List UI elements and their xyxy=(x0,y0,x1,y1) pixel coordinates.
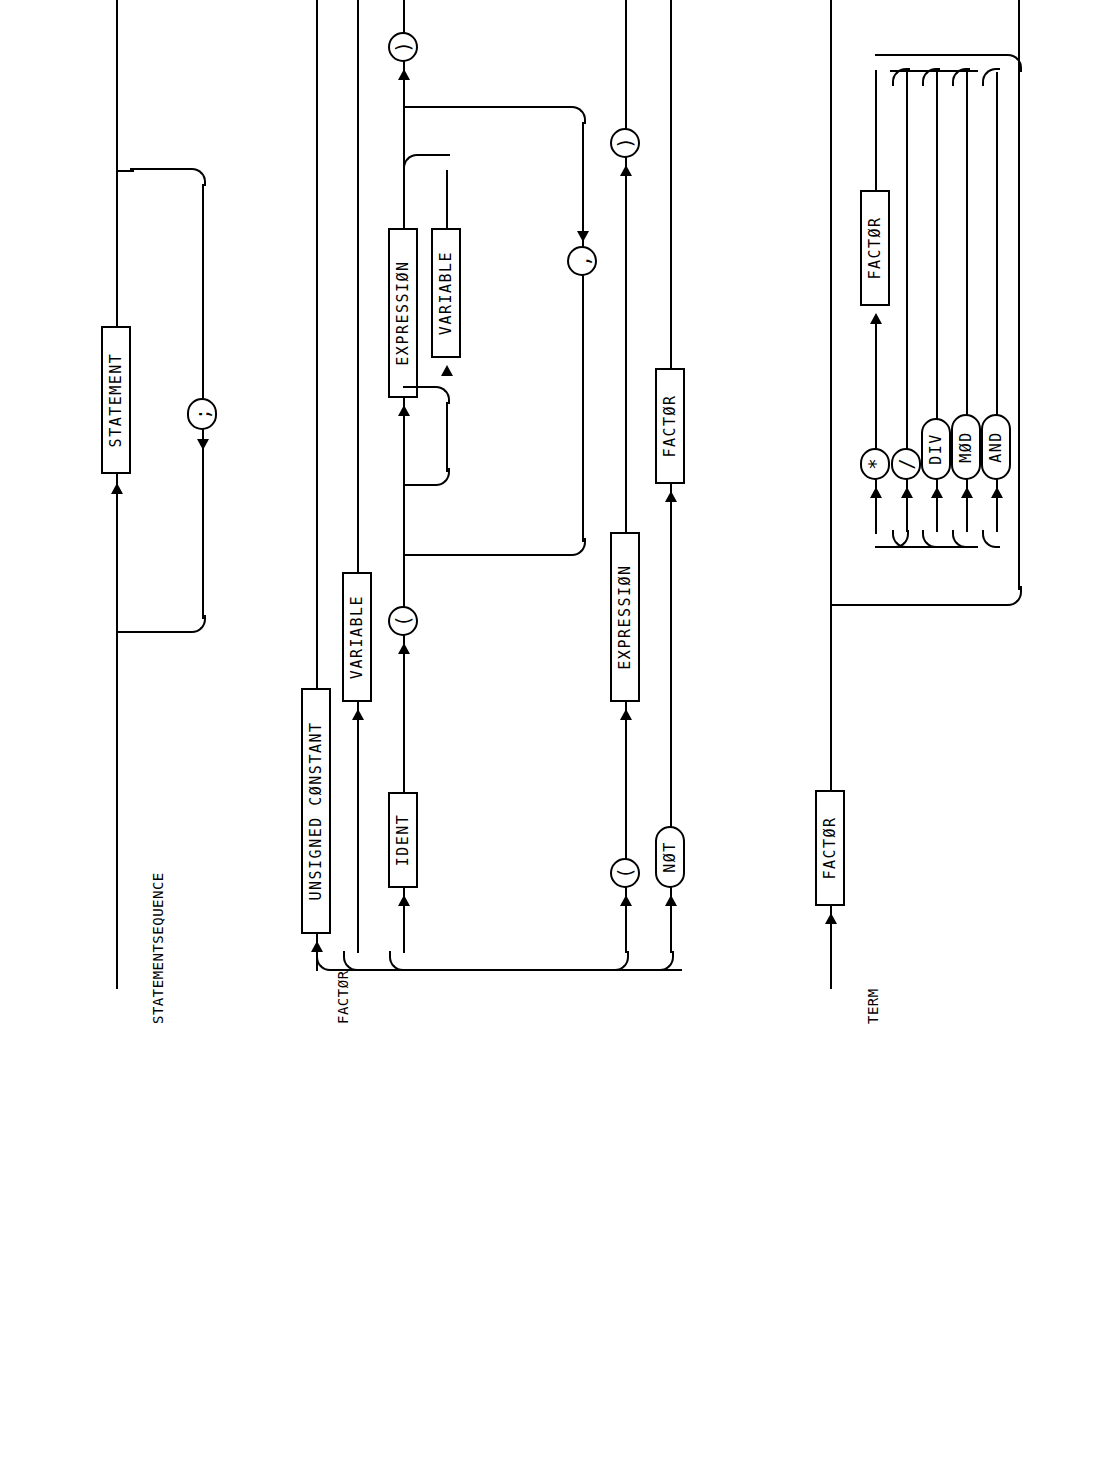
nonterminal-not-factor[interactable]: FACTØR xyxy=(655,368,685,484)
nonterminal-statement[interactable]: STATEMENT xyxy=(101,326,131,474)
alt2-rail xyxy=(357,0,359,953)
arrow-into-op-and xyxy=(991,487,1003,498)
op5-elbow-left xyxy=(982,530,1000,548)
fanout-elbow-top xyxy=(316,951,340,971)
arrow-into-expression-paren xyxy=(620,709,632,720)
terminal-comma[interactable]: , xyxy=(567,246,597,276)
arrow-into-semicolon xyxy=(197,439,209,450)
nonterminal-expression-paren[interactable]: EXPRESSIØN xyxy=(610,532,640,702)
terminal-rparen-call[interactable]: ) xyxy=(388,32,418,62)
terminal-lparen-call[interactable]: ( xyxy=(388,606,418,636)
diagram-statementsequence: STATEMENTSEQUENCE STATEMENT ; xyxy=(0,0,240,1102)
nonterminal-variable-args[interactable]: VARIABLE xyxy=(431,228,461,358)
comma-loop-elbow-right xyxy=(403,106,586,124)
nonterminal-unsigned-constant[interactable]: UNSIGNED CØNSTANT xyxy=(301,688,331,934)
arrow-into-statement xyxy=(111,483,123,494)
args-branch-rejoin xyxy=(446,170,448,228)
args-branch-elbow-right xyxy=(403,386,450,404)
alt2-elbow-left xyxy=(343,951,361,971)
args-branch-elbow-left xyxy=(403,468,450,486)
terminal-op-div-slash[interactable]: / xyxy=(891,448,921,480)
terminal-semicolon[interactable]: ; xyxy=(187,398,217,430)
arrow-into-not xyxy=(665,895,677,906)
loop-elbow-right xyxy=(130,168,206,186)
diagram-label-factor: FACTØR xyxy=(335,970,351,1024)
loop-riser-left xyxy=(116,631,134,633)
alt5-elbow-left xyxy=(656,951,674,971)
arrow-into-lparen-expr xyxy=(620,895,632,906)
arrow-into-op-mod xyxy=(961,487,973,498)
arrow-into-expression-args xyxy=(398,405,410,416)
diagram-label-term: TERM xyxy=(865,988,881,1024)
terminal-rparen-expr[interactable]: ) xyxy=(610,128,640,158)
arrow-into-op-div-slash xyxy=(901,487,913,498)
arrow-into-factor-first xyxy=(825,913,837,924)
loop-elbow-left xyxy=(130,615,206,633)
term-loop-body-rail xyxy=(875,322,877,534)
main-rail-statementsequence xyxy=(116,0,118,989)
terminal-op-mul[interactable]: * xyxy=(860,448,890,480)
arrow-into-lparen-call xyxy=(398,643,410,654)
comma-loop-elbow-left xyxy=(403,538,586,556)
arrow-into-unsigned-constant xyxy=(311,941,323,952)
nonterminal-factor-loop[interactable]: FACTØR xyxy=(860,190,890,306)
arrow-into-op-div xyxy=(931,487,943,498)
term-loop-body-rail-out xyxy=(875,70,877,190)
terminal-op-div[interactable]: DIV xyxy=(921,418,951,480)
nonterminal-factor-first[interactable]: FACTØR xyxy=(815,790,845,906)
nonterminal-expression-args[interactable]: EXPRESSIØN xyxy=(388,228,418,398)
arrow-into-variable-args xyxy=(441,365,453,376)
term-loop-riser-left xyxy=(830,604,848,606)
arrow-into-comma xyxy=(577,231,589,242)
arrow-into-rparen-expr xyxy=(620,165,632,176)
alt4-elbow-left xyxy=(611,951,629,971)
diagram-label-statementsequence: STATEMENTSEQUENCE xyxy=(150,872,166,1024)
nonterminal-ident[interactable]: IDENT xyxy=(388,792,418,888)
loop-riser-right xyxy=(116,170,134,172)
args-branch-rail xyxy=(446,402,448,472)
args-rejoin-elbow xyxy=(403,154,450,172)
terminal-lparen-expr[interactable]: ( xyxy=(610,858,640,888)
fanout-spine xyxy=(330,969,682,971)
alt3-elbow-left xyxy=(389,951,407,971)
arrow-into-op-mul xyxy=(870,487,882,498)
nonterminal-variable-alt[interactable]: VARIABLE xyxy=(342,572,372,702)
arrow-into-variable-alt xyxy=(352,709,364,720)
terminal-not[interactable]: NØT xyxy=(655,826,685,888)
arrow-into-ident xyxy=(398,895,410,906)
diagram-term: TERM FACTØR FACTØR * / xyxy=(760,0,1100,1102)
comma-loop-rail xyxy=(582,122,584,542)
term-loop-outer-elbow-left xyxy=(845,586,1022,606)
terminal-op-and[interactable]: AND xyxy=(981,414,1011,480)
term-loop-outer-rail xyxy=(1018,0,1020,590)
diagram-factor: FACTØR UNSIGNED CØNSTANT VARIABLE IDENT … xyxy=(260,0,730,1102)
terminal-op-mod[interactable]: MØD xyxy=(951,414,981,480)
arrow-into-not-factor xyxy=(665,491,677,502)
diagram-sheet: STATEMENTSEQUENCE STATEMENT ; FACTØR UNS… xyxy=(0,0,1102,1102)
arrow-into-rparen-call xyxy=(398,69,410,80)
